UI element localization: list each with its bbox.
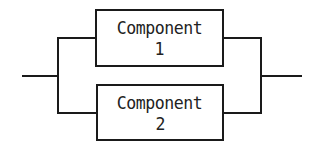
component-1-label-line1: Component	[117, 17, 203, 38]
component-1-label-line2: 1	[155, 38, 165, 59]
right-connector-component-2	[222, 112, 262, 114]
component-1-block: Component 1	[95, 9, 224, 67]
left-junction-bus	[57, 37, 59, 114]
left-connector-component-1	[57, 37, 97, 39]
right-connector-component-1	[222, 37, 262, 39]
left-connector-component-2	[57, 112, 97, 114]
component-2-label-line2: 2	[155, 113, 165, 134]
input-line	[22, 75, 59, 77]
component-2-label-line1: Component	[117, 92, 203, 113]
output-line	[260, 75, 302, 77]
parallel-system-diagram: Component 1 Component 2	[0, 0, 321, 156]
component-2-block: Component 2	[96, 84, 224, 141]
